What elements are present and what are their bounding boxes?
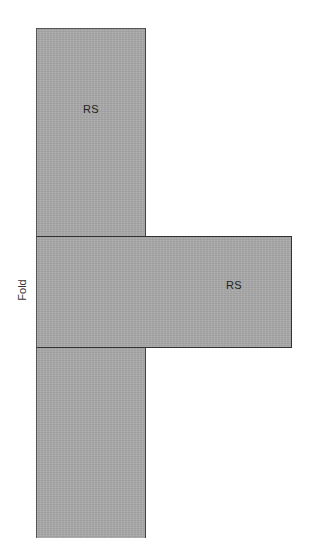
- bottom-panel: [36, 347, 146, 538]
- middle-panel: [36, 236, 292, 348]
- middle-panel-label: RS: [226, 279, 242, 291]
- top-panel-label: RS: [83, 103, 99, 115]
- fold-label: Fold: [16, 279, 28, 300]
- top-panel: [36, 28, 146, 237]
